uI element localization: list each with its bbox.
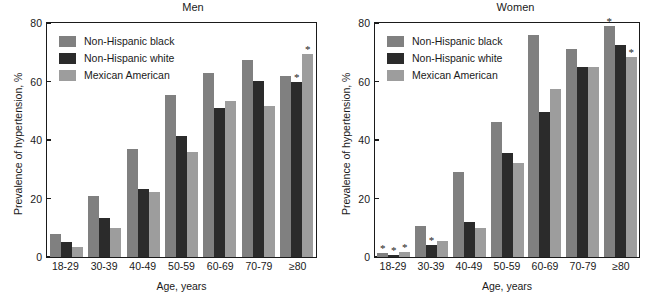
bar (88, 196, 99, 257)
bar-slot (513, 23, 524, 257)
bar (475, 228, 486, 257)
legend-item-non-hispanic-white: Non-Hispanic white (387, 50, 502, 66)
bar-slot (280, 23, 291, 257)
bar (550, 89, 561, 257)
plot-area-women: 020406080 ****** Non-Hispanic black Non-… (374, 22, 640, 258)
bar (187, 152, 198, 257)
bar-slot (264, 23, 275, 257)
x-tick-label: 30-39 (412, 260, 450, 272)
bar (214, 108, 225, 257)
legend-swatch-icon-non-hispanic-black (59, 36, 76, 47)
bar-slot: * (291, 23, 302, 257)
bar (588, 67, 599, 257)
legend-label-non-hispanic-white: Non-Hispanic white (412, 52, 502, 64)
x-ticks-women: 18-2930-3940-4950-5960-6970-79≥80 (374, 260, 640, 272)
bar (149, 192, 160, 257)
significance-asterisk: * (294, 74, 300, 80)
bar (626, 57, 637, 257)
bar (165, 95, 176, 257)
bar (61, 242, 72, 258)
bar (176, 136, 187, 257)
bar-slot (615, 23, 626, 257)
x-ticks-men: 18-2930-3940-4950-5960-6970-79≥80 (46, 260, 317, 272)
bar (415, 226, 426, 257)
x-tick-label: 40-49 (123, 260, 162, 272)
x-tick-label: 40-49 (450, 260, 488, 272)
bar-slot (539, 23, 550, 257)
significance-asterisk: * (628, 49, 634, 55)
legend-item-non-hispanic-black: Non-Hispanic black (59, 33, 174, 49)
bar (502, 153, 513, 257)
bar (426, 245, 437, 257)
significance-asterisk: * (429, 237, 435, 243)
bar (437, 241, 448, 257)
significance-asterisk: * (380, 245, 386, 251)
x-tick-label: 60-69 (526, 260, 564, 272)
bar-slot (187, 23, 198, 257)
significance-asterisk: * (606, 18, 612, 24)
bar (138, 189, 149, 257)
bar-slot (550, 23, 561, 257)
significance-asterisk: * (402, 244, 408, 250)
bar (253, 81, 264, 257)
bar (464, 222, 475, 257)
bar (110, 228, 121, 257)
y-tick-label: 80 (30, 17, 47, 29)
panel-title-women: Women (330, 1, 653, 13)
bar-slot (502, 23, 513, 257)
legend-label-non-hispanic-black: Non-Hispanic black (412, 35, 502, 47)
bar (566, 49, 577, 257)
plot-area-men: 020406080 ** Non-Hispanic black Non-Hisp… (46, 22, 317, 258)
bar (513, 163, 524, 257)
y-tick-label: 60 (358, 76, 375, 88)
bar (604, 26, 615, 257)
bar (203, 73, 214, 257)
bar-slot: * (626, 23, 637, 257)
bar-group: ** (601, 23, 639, 257)
legend-label-non-hispanic-black: Non-Hispanic black (84, 35, 174, 47)
bar-slot (588, 23, 599, 257)
legend-item-non-hispanic-black: Non-Hispanic black (387, 33, 502, 49)
bar-slot: * (302, 23, 313, 257)
bar-group (526, 23, 564, 257)
bar-slot: * (604, 23, 615, 257)
significance-asterisk: * (305, 46, 311, 52)
bar-slot (225, 23, 236, 257)
y-tick-label: 20 (358, 193, 375, 205)
bar-slot (242, 23, 253, 257)
x-tick-label: 60-69 (201, 260, 240, 272)
x-axis-label-women: Age, years (374, 280, 640, 292)
x-axis-label-men: Age, years (46, 280, 317, 292)
bar (528, 35, 539, 257)
bar (264, 106, 275, 257)
y-tick-label: 20 (30, 193, 47, 205)
bar (50, 234, 61, 257)
bar-slot (253, 23, 264, 257)
bar (453, 172, 464, 257)
bar (615, 45, 626, 257)
x-tick-label: 18-29 (374, 260, 412, 272)
panel-men: Men Prevalence of hypertension, % 020406… (0, 0, 330, 303)
bar-group (239, 23, 277, 257)
bar (302, 54, 313, 257)
bar (99, 218, 110, 257)
bar (539, 112, 550, 257)
y-tick-label: 80 (358, 17, 375, 29)
legend-swatch-icon-mexican-american (59, 70, 76, 81)
legend-item-mexican-american: Mexican American (59, 67, 174, 83)
legend-swatch-icon-non-hispanic-black (387, 36, 404, 47)
hypertension-prevalence-figure: Men Prevalence of hypertension, % 020406… (0, 0, 653, 303)
legend-men: Non-Hispanic black Non-Hispanic white Me… (59, 33, 174, 84)
x-tick-label: 30-39 (85, 260, 124, 272)
x-tick-label: 50-59 (162, 260, 201, 272)
bar-slot (566, 23, 577, 257)
bar (491, 122, 502, 257)
x-tick-label: ≥80 (278, 260, 317, 272)
x-tick-label: 50-59 (488, 260, 526, 272)
panel-women: Women Prevalence of hypertension, % 0204… (330, 0, 653, 303)
bar-group (201, 23, 239, 257)
y-axis-label-women: Prevalence of hypertension, % (340, 73, 352, 215)
bar-group (564, 23, 602, 257)
x-tick-label: ≥80 (602, 260, 640, 272)
legend-item-mexican-american: Mexican American (387, 67, 502, 83)
